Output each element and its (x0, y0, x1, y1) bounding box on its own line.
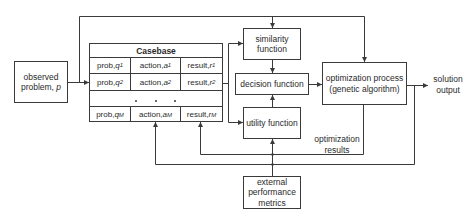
casebase-cell-result: result, rM (181, 107, 222, 122)
ellipsis-dot (135, 100, 137, 102)
cell-var: q (115, 78, 119, 87)
observed-problem-box: observed problem, p (14, 61, 68, 103)
cell-var: q (115, 61, 119, 70)
casebase-cell-prob: prob, q1 (90, 57, 131, 73)
cell-label: action, (139, 110, 163, 119)
casebase-row: prob, q1 action, a1 result, r1 (90, 57, 222, 74)
optimization-results-label: optimization results (312, 134, 362, 155)
optimization-process-box: optimization process (genetic algorithm) (322, 62, 407, 105)
casebase-table: Casebase prob, q1 action, a1 result, r1 … (89, 43, 223, 122)
observed-problem-line1: observed (24, 72, 59, 83)
cell-label: result, (188, 78, 210, 87)
junction-dot (271, 153, 274, 156)
metrics-line2: performance (248, 187, 296, 198)
ellipsis-dot (174, 100, 176, 102)
cell-label: prob, (97, 78, 115, 87)
cell-label: result, (188, 61, 210, 70)
opt-results-line2: results (312, 145, 362, 156)
similarity-line1: similarity (255, 34, 288, 45)
similarity-function-box: similarity function (243, 28, 301, 60)
casebase-cell-prob: prob, q2 (90, 74, 131, 90)
decision-label: decision function (240, 79, 303, 90)
casebase-title: Casebase (90, 44, 222, 58)
cell-label: result, (187, 110, 209, 119)
casebase-cell-prob: prob, qM (90, 107, 131, 122)
casebase-cell-action: action, aM (131, 107, 181, 122)
solution-output-label: solution output (428, 74, 468, 95)
utility-function-box: utility function (243, 107, 301, 139)
cbr-flow-diagram: observed problem, p Casebase prob, q1 ac… (0, 0, 471, 222)
ellipsis-dot (155, 100, 157, 102)
casebase-row: prob, qM action, aM result, rM (90, 107, 222, 122)
observed-problem-symbol: p (56, 82, 61, 92)
solution-line1: solution (428, 74, 468, 85)
cell-label: action, (140, 61, 164, 70)
observed-problem-line2: problem, (21, 82, 56, 92)
metrics-line3: metrics (258, 198, 285, 209)
utility-label: utility function (246, 118, 298, 129)
casebase-row: prob, q2 action, a2 result, r2 (90, 74, 222, 91)
similarity-line2: function (257, 44, 287, 55)
casebase-cell-action: action, a1 (131, 57, 181, 73)
opt-results-line1: optimization (312, 134, 362, 145)
solution-line2: output (428, 85, 468, 96)
connectors (0, 0, 471, 222)
casebase-cell-result: result, r1 (181, 57, 222, 73)
casebase-cell-action: action, a2 (131, 74, 181, 90)
casebase-ellipsis-row (90, 91, 222, 107)
metrics-line1: external (257, 177, 287, 188)
junction-dot (271, 163, 274, 166)
observed-problem-line2-wrap: problem, p (21, 82, 61, 93)
optimization-line1: optimization process (326, 73, 403, 84)
optimization-line2: (genetic algorithm) (329, 84, 399, 95)
decision-function-box: decision function (235, 73, 309, 95)
external-metrics-box: external performance metrics (243, 176, 301, 209)
cell-label: prob, (97, 61, 115, 70)
cell-label: prob, (96, 110, 114, 119)
casebase-cell-result: result, r2 (181, 74, 222, 90)
cell-label: action, (140, 78, 164, 87)
